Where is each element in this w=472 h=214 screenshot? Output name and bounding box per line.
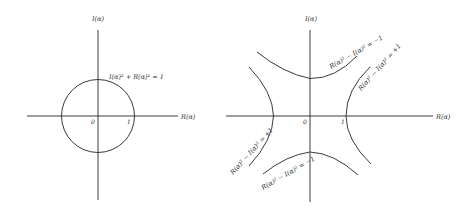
right-y-axis-label: I(α) <box>304 15 317 23</box>
left-diagram: I(α) R(α) 0 1 I(α)² + R(α)² = 1 <box>27 15 196 200</box>
left-x-axis-label: R(α) <box>180 113 196 121</box>
right-diagram: I(α) R(α) 0 1 R(α)² − I(α)² = −1 R(α)² −… <box>226 15 451 202</box>
right-x-axis-label: R(α) <box>435 113 451 121</box>
right-unit-label: 1 <box>341 118 345 125</box>
right-origin-label: 0 <box>303 118 307 125</box>
left-branch-label: R(α)² − I(α)² = +1 <box>228 126 275 177</box>
circle-equation-label: I(α)² + R(α)² = 1 <box>108 73 164 81</box>
left-unit-label: 1 <box>127 118 131 125</box>
left-y-axis-label: I(α) <box>91 15 104 23</box>
left-origin-label: 0 <box>91 118 95 125</box>
bottom-branch-label: R(α)² − I(α)² = −1 <box>259 155 316 193</box>
diagram-canvas: I(α) R(α) 0 1 I(α)² + R(α)² = 1 I(α) R(α… <box>0 0 472 214</box>
